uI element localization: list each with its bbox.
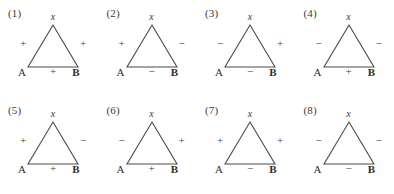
apex-vertex-label: x bbox=[121, 108, 183, 119]
triangle-panel: (7)xAB++− bbox=[197, 97, 296, 194]
left-vertex-label: A bbox=[310, 66, 326, 78]
right-edge-sign: + bbox=[275, 38, 285, 49]
right-edge-sign: − bbox=[374, 135, 384, 146]
left-edge-sign: + bbox=[18, 135, 28, 146]
panel-number-label: (3) bbox=[205, 7, 218, 19]
bottom-edge-sign: − bbox=[245, 163, 255, 174]
right-edge-sign: + bbox=[275, 135, 285, 146]
right-edge-sign: + bbox=[177, 135, 187, 146]
triangle-panel: (5)xAB+−+ bbox=[0, 97, 99, 194]
left-edge-sign: + bbox=[117, 38, 127, 49]
apex-vertex-label: x bbox=[219, 108, 281, 119]
triangle-figure: xAB−−+ bbox=[318, 12, 380, 84]
right-vertex-label: B bbox=[364, 66, 380, 78]
left-vertex-label: A bbox=[211, 163, 227, 175]
panel-number-label: (4) bbox=[304, 7, 317, 19]
triangle-figure: xAB+−+ bbox=[22, 109, 84, 181]
panel-number-label: (7) bbox=[205, 104, 218, 116]
triangle-panel: (8)xAB−−− bbox=[296, 97, 394, 194]
panel-number-label: (2) bbox=[107, 7, 120, 19]
right-edge-sign: − bbox=[177, 38, 187, 49]
left-edge-sign: − bbox=[215, 38, 225, 49]
right-vertex-label: B bbox=[167, 66, 183, 78]
bottom-edge-sign: − bbox=[344, 163, 354, 174]
triangle-figure: xAB+−− bbox=[121, 12, 183, 84]
left-vertex-label: A bbox=[211, 66, 227, 78]
apex-vertex-label: x bbox=[22, 11, 84, 22]
bottom-edge-sign: − bbox=[245, 66, 255, 77]
left-vertex-label: A bbox=[113, 66, 129, 78]
apex-vertex-label: x bbox=[219, 11, 281, 22]
triangle-panel: (2)xAB+−− bbox=[99, 0, 198, 97]
panel-number-label: (5) bbox=[8, 104, 21, 116]
bottom-edge-sign: + bbox=[48, 66, 58, 77]
left-edge-sign: + bbox=[18, 38, 28, 49]
apex-vertex-label: x bbox=[121, 11, 183, 22]
left-vertex-label: A bbox=[14, 163, 30, 175]
right-vertex-label: B bbox=[265, 66, 281, 78]
bottom-edge-sign: + bbox=[48, 163, 58, 174]
right-edge-sign: − bbox=[78, 135, 88, 146]
panel-number-label: (1) bbox=[8, 7, 21, 19]
triangle-panel: (3)xAB−+− bbox=[197, 0, 296, 97]
right-edge-sign: − bbox=[374, 38, 384, 49]
triangle-diagram-grid: (1)xAB+++(2)xAB+−−(3)xAB−+−(4)xAB−−+(5)x… bbox=[0, 0, 394, 194]
triangle-figure: xAB++− bbox=[219, 109, 281, 181]
apex-vertex-label: x bbox=[318, 11, 380, 22]
right-vertex-label: B bbox=[167, 163, 183, 175]
left-edge-sign: − bbox=[117, 135, 127, 146]
right-edge-sign: + bbox=[78, 38, 88, 49]
triangle-figure: xAB−++ bbox=[121, 109, 183, 181]
right-vertex-label: B bbox=[68, 163, 84, 175]
bottom-edge-sign: − bbox=[147, 66, 157, 77]
apex-vertex-label: x bbox=[318, 108, 380, 119]
panel-number-label: (6) bbox=[107, 104, 120, 116]
apex-vertex-label: x bbox=[22, 108, 84, 119]
triangle-panel: (6)xAB−++ bbox=[99, 97, 198, 194]
left-vertex-label: A bbox=[14, 66, 30, 78]
right-vertex-label: B bbox=[68, 66, 84, 78]
triangle-panel: (4)xAB−−+ bbox=[296, 0, 394, 97]
bottom-edge-sign: + bbox=[344, 66, 354, 77]
left-edge-sign: + bbox=[215, 135, 225, 146]
right-vertex-label: B bbox=[364, 163, 380, 175]
triangle-figure: xAB−+− bbox=[219, 12, 281, 84]
triangle-figure: xAB−−− bbox=[318, 109, 380, 181]
right-vertex-label: B bbox=[265, 163, 281, 175]
left-vertex-label: A bbox=[310, 163, 326, 175]
left-edge-sign: − bbox=[314, 135, 324, 146]
left-edge-sign: − bbox=[314, 38, 324, 49]
left-vertex-label: A bbox=[113, 163, 129, 175]
triangle-figure: xAB+++ bbox=[22, 12, 84, 84]
triangle-panel: (1)xAB+++ bbox=[0, 0, 99, 97]
panel-number-label: (8) bbox=[304, 104, 317, 116]
bottom-edge-sign: + bbox=[147, 163, 157, 174]
